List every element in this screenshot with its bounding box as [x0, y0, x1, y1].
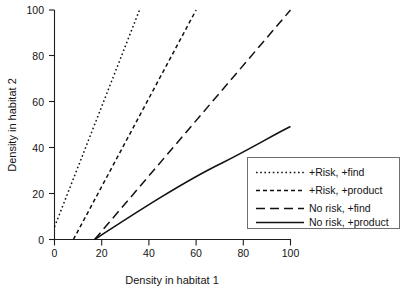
chart-figure: 0 20 40 60 80 100 0 20 40 60 80 100 Dens… [0, 0, 410, 298]
x-tick-label-80: 80 [237, 247, 249, 259]
y-tick-label-80: 80 [32, 50, 44, 62]
y-tick-label-0: 0 [38, 234, 44, 246]
x-tick-label-0: 0 [52, 247, 58, 259]
legend-label-norisk-product: No risk, +product [309, 216, 389, 228]
plot-canvas: 0 20 40 60 80 100 0 20 40 60 80 100 Dens… [0, 0, 410, 298]
legend-label-risk-product: +Risk, +product [309, 184, 383, 196]
y-tick-label-60: 60 [32, 96, 44, 108]
y-tick-label-100: 100 [26, 4, 44, 16]
x-axis-title: Density in habitat 1 [125, 274, 219, 286]
series-line-risk-product [73, 10, 196, 240]
x-tick-label-60: 60 [190, 247, 202, 259]
y-tick-label-40: 40 [32, 142, 44, 154]
x-tick-label-40: 40 [143, 247, 155, 259]
y-axis-title: Density in habitat 2 [6, 78, 18, 172]
y-tick-label-20: 20 [32, 188, 44, 200]
legend-label-norisk-find: No risk, +find [309, 202, 371, 214]
legend: +Risk, +find +Risk, +product No risk, +f… [248, 158, 400, 229]
x-tick-label-100: 100 [282, 247, 300, 259]
legend-label-risk-find: +Risk, +find [309, 166, 365, 178]
x-tick-label-20: 20 [96, 247, 108, 259]
